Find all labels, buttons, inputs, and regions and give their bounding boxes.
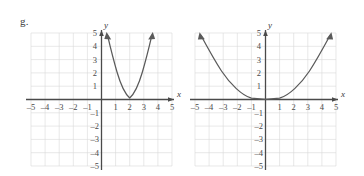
y-tick-label: –4 bbox=[90, 148, 100, 158]
x-tick-label: 1 bbox=[277, 102, 281, 112]
y-tick-label: 1 bbox=[93, 81, 97, 91]
x-tick-label: 3 bbox=[306, 102, 310, 112]
y-tick-label: 5 bbox=[257, 28, 261, 38]
y-tick-label: 2 bbox=[257, 68, 261, 78]
x-tick-labels-negative-h: –5 –4 –3 –2 –1 bbox=[190, 102, 256, 112]
x-tick-labels-positive-g: 1 2 3 4 5 bbox=[113, 102, 174, 112]
axes-h bbox=[190, 30, 338, 170]
figure-page: g. bbox=[0, 0, 364, 176]
x-axis-name-h: x bbox=[340, 89, 345, 99]
x-tick-label: –5 bbox=[190, 102, 200, 112]
y-tick-label: –1 bbox=[254, 108, 264, 118]
x-tick-label: –3 bbox=[218, 102, 228, 112]
y-tick-label: –5 bbox=[254, 161, 264, 171]
y-tick-label: –3 bbox=[254, 134, 264, 144]
curve-arrowhead-left-h bbox=[198, 32, 205, 39]
y-tick-label: 1 bbox=[257, 81, 261, 91]
y-tick-label: 2 bbox=[93, 68, 97, 78]
x-tick-label: –5 bbox=[26, 102, 36, 112]
y-axis-name-g: y bbox=[103, 20, 108, 30]
plot-area-g: –5 –4 –3 –2 –1 1 2 3 4 5 1 2 3 4 5 bbox=[0, 0, 182, 176]
axes-g bbox=[26, 30, 174, 170]
x-tick-label: 2 bbox=[128, 102, 132, 112]
curve-arrowhead-right-h bbox=[326, 32, 333, 39]
x-tick-label: 5 bbox=[334, 102, 338, 112]
x-tick-label: –2 bbox=[68, 102, 78, 112]
x-tick-label: 3 bbox=[142, 102, 146, 112]
y-tick-label: 5 bbox=[93, 28, 97, 38]
x-tick-label: –3 bbox=[54, 102, 64, 112]
x-tick-label: 5 bbox=[170, 102, 174, 112]
plot-area-h: –5 –4 –3 –2 –1 1 2 3 4 5 1 2 3 4 5 –1 bbox=[182, 0, 364, 176]
y-tick-label: –3 bbox=[90, 134, 100, 144]
x-tick-label: –4 bbox=[40, 102, 50, 112]
y-tick-label: 3 bbox=[257, 55, 261, 65]
y-tick-label: –1 bbox=[90, 108, 100, 118]
y-tick-label: 3 bbox=[93, 55, 97, 65]
x-tick-label: 1 bbox=[113, 102, 117, 112]
x-tick-label: 2 bbox=[292, 102, 296, 112]
y-tick-labels-negative-h: –1 –2 –3 –4 –5 bbox=[254, 108, 264, 171]
x-tick-labels-positive-h: 1 2 3 4 5 bbox=[277, 102, 338, 112]
x-tick-label: –2 bbox=[232, 102, 242, 112]
graph-panel-g: g. bbox=[0, 0, 182, 176]
x-tick-label: 4 bbox=[156, 102, 161, 112]
y-axis-name-h: y bbox=[267, 20, 272, 30]
y-tick-label: –2 bbox=[254, 121, 264, 131]
graph-panel-h: h. bbox=[182, 0, 364, 176]
y-tick-label: –4 bbox=[254, 148, 264, 158]
x-tick-label: –4 bbox=[204, 102, 214, 112]
x-tick-labels-negative-g: –5 –4 –3 –2 –1 bbox=[26, 102, 92, 112]
y-tick-labels-negative-g: –1 –2 –3 –4 –5 bbox=[90, 108, 100, 171]
y-tick-label: –2 bbox=[90, 121, 100, 131]
y-tick-label: –5 bbox=[90, 161, 100, 171]
x-tick-label: 4 bbox=[320, 102, 325, 112]
x-axis-name-g: x bbox=[176, 89, 181, 99]
